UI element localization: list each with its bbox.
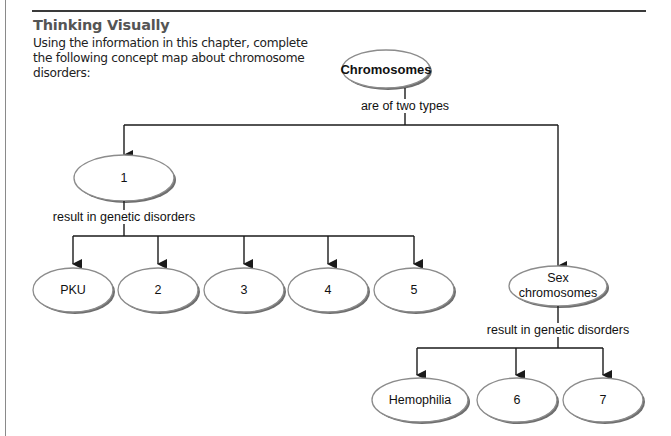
node-chromosomes-label: Chromosomes — [340, 62, 431, 77]
node-5-label[interactable]: 5 — [411, 283, 418, 298]
link-label-node-1: result in genetic disorders — [51, 210, 197, 224]
node-4-label[interactable]: 4 — [325, 283, 332, 298]
link-label-sex-chromosomes: result in genetic disorders — [485, 323, 631, 337]
link-label-root: are of two types — [359, 99, 451, 113]
node-6-label[interactable]: 6 — [514, 393, 521, 408]
node-1-label[interactable]: 1 — [121, 171, 128, 186]
node-3-label[interactable]: 3 — [241, 283, 248, 298]
node-sex-chromosomes-label: Sex chromosomes — [519, 271, 598, 301]
node-2-label[interactable]: 2 — [155, 283, 162, 298]
node-7-label[interactable]: 7 — [600, 393, 607, 408]
node-sex-chromosomes-line1: Sex — [519, 271, 598, 286]
node-sex-chromosomes-line2: chromosomes — [519, 286, 598, 301]
node-hemophilia-label: Hemophilia — [389, 393, 452, 408]
node-pku-label: PKU — [60, 283, 86, 298]
